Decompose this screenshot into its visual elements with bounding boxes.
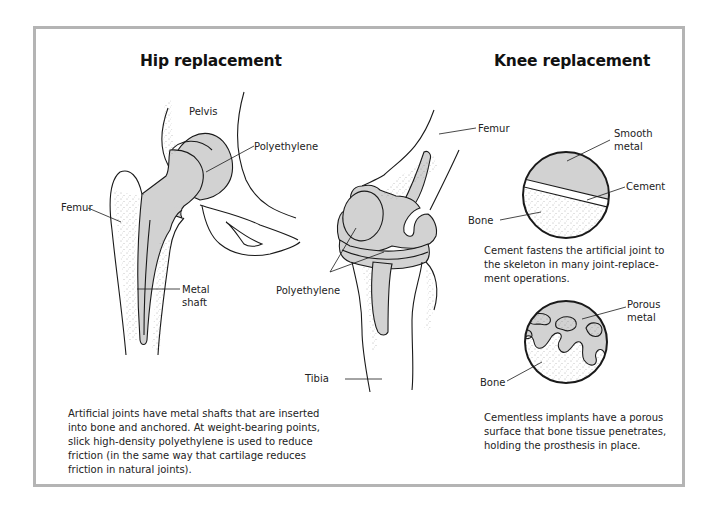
label-polyethylene-knee: Polyethylene [276,284,340,297]
label-metal-shaft-line1: Metal [182,283,210,296]
label-smooth-metal-line2: metal [614,140,653,153]
label-polyethylene-hip: Polyethylene [254,140,318,153]
cement-caption: Cement fastens the artificial joint to t… [484,244,668,286]
label-cement: Cement [626,180,665,193]
label-porous-metal-line2: metal [627,311,660,324]
label-bone-porous: Bone [480,376,505,389]
pelvis-lower [200,205,298,240]
label-tibia: Tibia [305,372,329,385]
ischium [202,206,300,256]
label-porous-metal-line1: Porous [627,298,660,311]
label-metal-shaft: Metal shaft [182,283,210,309]
porous-caption: Cementless implants have a porous surfac… [484,411,668,453]
pelvis-outline-right [238,92,297,218]
cement-detail-circle [520,150,620,250]
hip-caption: Artificial joints have metal shafts that… [68,407,340,477]
obturator [226,222,262,246]
porous-detail-circle [520,298,620,388]
label-femur-hip: Femur [61,201,93,214]
hip-title: Hip replacement [140,52,282,70]
label-bone-cement: Bone [468,214,493,227]
knee-title: Knee replacement [494,52,650,70]
label-femur-knee: Femur [478,122,510,135]
label-porous-metal: Porous metal [627,298,660,324]
hip-drawing [110,92,300,355]
leader-femur-knee [439,128,476,134]
knee-drawing [337,110,459,392]
label-pelvis: Pelvis [189,105,218,118]
label-metal-shaft-line2: shaft [182,296,210,309]
label-smooth-metal-line1: Smooth [614,127,653,140]
label-smooth-metal: Smooth metal [614,127,653,153]
